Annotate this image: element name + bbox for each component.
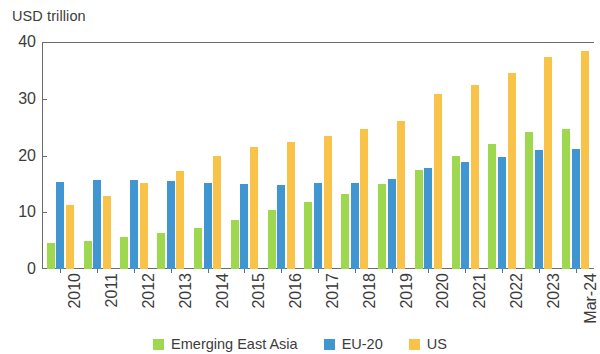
x-tick-mark [281, 269, 282, 273]
bar [231, 220, 239, 269]
bar [324, 136, 332, 269]
bar-group [84, 42, 111, 269]
bar [268, 210, 276, 269]
y-tick-label: 40 [2, 34, 36, 50]
bar-group [415, 42, 442, 269]
bar [452, 156, 460, 269]
bar-group [562, 42, 589, 269]
bar-chart-figure: USD trillion 403020100 20102011201220132… [0, 0, 600, 354]
bar-group [120, 42, 147, 269]
x-tick-mark [576, 269, 577, 273]
bar [351, 183, 359, 269]
bar [471, 85, 479, 269]
x-tick-label: 2020 [435, 273, 451, 309]
bar [120, 237, 128, 269]
y-tick-mark [42, 99, 47, 100]
bar [157, 233, 165, 269]
bar-group [194, 42, 221, 269]
bar [213, 156, 221, 269]
bar-group [268, 42, 295, 269]
bar [544, 57, 552, 269]
bar [140, 183, 148, 269]
bar-group [378, 42, 405, 269]
bar [424, 168, 432, 269]
x-tick-label: 2023 [546, 273, 562, 309]
x-tick-mark [97, 269, 98, 273]
bar [360, 129, 368, 269]
bar-group [231, 42, 258, 269]
bar-group [488, 42, 515, 269]
x-tick-mark [318, 269, 319, 273]
x-tick-label: Mar-24 [583, 273, 599, 324]
legend-item[interactable]: US [409, 337, 447, 352]
bar [378, 184, 386, 269]
x-tick-mark [244, 269, 245, 273]
legend-swatch-icon [409, 339, 420, 350]
x-tick-mark [428, 269, 429, 273]
bar [314, 183, 322, 269]
x-tick-label: 2017 [325, 273, 341, 309]
x-tick-label: 2016 [288, 273, 304, 309]
bar [488, 144, 496, 269]
bar-group [341, 42, 368, 269]
x-tick-label: 2021 [472, 273, 488, 309]
x-tick-label: 2014 [215, 273, 231, 309]
x-tick-mark [392, 269, 393, 273]
bar [167, 181, 175, 269]
bar [341, 194, 349, 269]
x-tick-label: 2022 [509, 273, 525, 309]
y-tick-mark [42, 212, 47, 213]
x-tick-label: 2018 [362, 273, 378, 309]
bar [47, 243, 55, 269]
y-tick-label: 20 [2, 148, 36, 164]
bar [240, 184, 248, 269]
x-tick-mark [502, 269, 503, 273]
y-tick-label: 10 [2, 204, 36, 220]
bar [84, 241, 92, 269]
bar-group [47, 42, 74, 269]
bar [103, 196, 111, 269]
bars-layer [42, 42, 594, 269]
legend-label: US [427, 337, 447, 352]
bar-group [157, 42, 184, 269]
x-tick-label: 2010 [67, 273, 83, 309]
bar [388, 179, 396, 269]
bar [535, 150, 543, 269]
x-tick-label: 2013 [178, 273, 194, 309]
legend-item[interactable]: Emerging East Asia [153, 337, 298, 352]
x-tick-mark [171, 269, 172, 273]
legend-label: EU-20 [342, 337, 383, 352]
bar [176, 171, 184, 269]
y-tick-label: 30 [2, 91, 36, 107]
bar [397, 121, 405, 269]
x-tick-label: 2011 [104, 273, 120, 307]
bar [415, 170, 423, 269]
x-tick-label: 2019 [399, 273, 415, 309]
bar [508, 73, 516, 269]
y-tick-mark [42, 156, 47, 157]
bar-group [304, 42, 331, 269]
x-tick-mark [539, 269, 540, 273]
x-tick-mark [60, 269, 61, 273]
bar [66, 205, 74, 269]
bar [498, 157, 506, 269]
bar [562, 129, 570, 269]
legend-item[interactable]: EU-20 [324, 337, 383, 352]
bar [461, 162, 469, 269]
bar [194, 228, 202, 269]
x-tick-label: 2015 [251, 273, 267, 309]
x-tick-label: 2012 [141, 273, 157, 309]
x-axis-tick-labels: 2010201120122013201420152016201720182019… [0, 269, 600, 329]
bar-group [452, 42, 479, 269]
legend-swatch-icon [324, 339, 335, 350]
bar [434, 94, 442, 269]
bar [130, 180, 138, 269]
bar [304, 202, 312, 269]
x-tick-mark [465, 269, 466, 273]
legend-swatch-icon [153, 339, 164, 350]
bar [93, 180, 101, 269]
bar-group [525, 42, 552, 269]
x-tick-mark [208, 269, 209, 273]
chart-legend: Emerging East AsiaEU-20US [0, 334, 600, 354]
legend-label: Emerging East Asia [171, 337, 298, 352]
